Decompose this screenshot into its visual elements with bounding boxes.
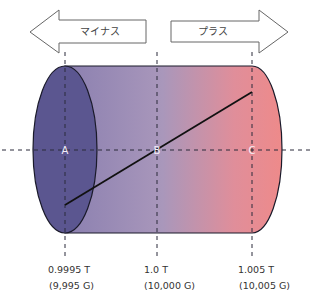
right-arrow-icon — [171, 10, 288, 53]
field-label-c: 1.005 T (10,005 G) — [238, 264, 290, 291]
tesla-value-b: 1.0 T — [144, 264, 168, 275]
gauss-value-a: (9,995 G) — [49, 280, 94, 291]
point-label-b: B — [154, 145, 161, 156]
point-label-a: A — [62, 145, 69, 156]
tesla-value-c: 1.005 T — [238, 264, 274, 275]
plus-label: プラス — [198, 26, 228, 37]
gauss-value-c: (10,005 G) — [239, 280, 290, 291]
plus-arrow: プラス — [171, 10, 288, 53]
gauss-value-b: (10,000 G) — [144, 280, 195, 291]
tesla-value-a: 0.9995 T — [48, 264, 90, 275]
minus-label: マイナス — [80, 26, 120, 37]
magnetic-field-gradient-diagram: マイナス プラス A B C 0.9995 T (9,995 G) 1.0 T … — [0, 0, 318, 300]
field-label-b: 1.0 T (10,000 G) — [144, 264, 195, 291]
point-label-c: C — [249, 145, 256, 156]
field-label-a: 0.9995 T (9,995 G) — [48, 264, 94, 291]
minus-arrow: マイナス — [30, 10, 146, 53]
